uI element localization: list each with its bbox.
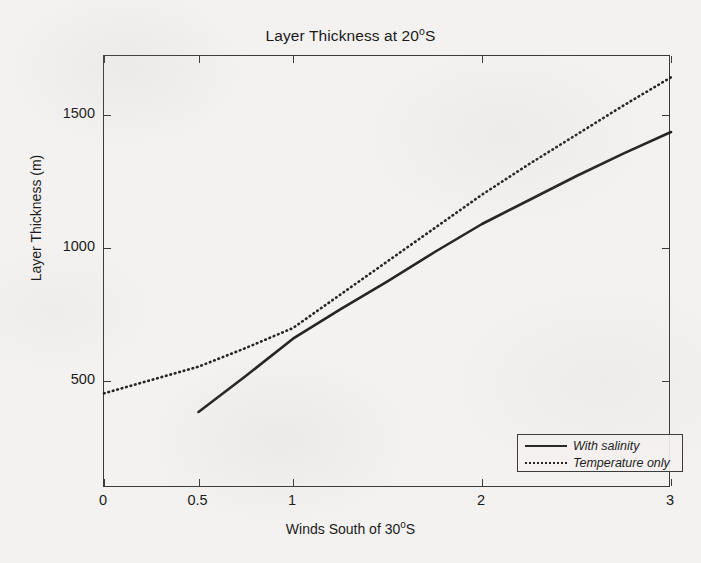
y-tick-label-1000: 1000 (35, 238, 95, 254)
legend-label-temperature-only: Temperature only (573, 456, 670, 470)
y-tick-500 (104, 381, 111, 382)
x-tick-top-1 (293, 56, 294, 63)
y-tick-right-1500 (662, 115, 669, 116)
legend-entry-temperature-only[interactable]: Temperature only (518, 453, 682, 472)
y-tick-1000 (104, 248, 111, 249)
y-axis-label: Layer Thickness (m) (28, 118, 44, 318)
series-line-with-salinity (199, 132, 672, 412)
x-axis-label-prefix: Winds South of 30 (286, 521, 400, 537)
x-tick-label-0: 0 (73, 492, 133, 508)
legend-swatch-solid-line-icon (525, 440, 567, 452)
chart-title-suffix: S (425, 27, 435, 44)
x-tick-1 (293, 479, 294, 486)
x-tick-label-2: 2 (451, 492, 511, 508)
x-tick-0.5 (199, 479, 200, 486)
curves-layer (104, 56, 671, 488)
chart-title: Layer Thickness at 20oS (0, 27, 701, 45)
legend[interactable]: With salinity Temperature only (517, 434, 683, 472)
figure-canvas: Layer Thickness at 20oS With salinity Te… (0, 0, 701, 563)
y-tick-right-500 (662, 381, 669, 382)
legend-label-with-salinity: With salinity (573, 439, 640, 453)
x-tick-top-0 (104, 56, 105, 63)
chart-title-prefix: Layer Thickness at 20 (266, 27, 419, 44)
x-tick-label-1: 1 (262, 492, 322, 508)
x-axis-label: Winds South of 30oS (0, 521, 701, 537)
y-tick-label-1500: 1500 (35, 105, 95, 121)
x-tick-top-3 (671, 56, 672, 63)
y-tick-right-1000 (662, 248, 669, 249)
x-tick-label-0.5: 0.5 (168, 492, 228, 508)
x-tick-2 (482, 479, 483, 486)
plot-area: With salinity Temperature only (103, 55, 670, 487)
x-tick-top-2 (482, 56, 483, 63)
x-axis-label-suffix: S (406, 521, 415, 537)
y-tick-label-500: 500 (35, 371, 95, 387)
legend-swatch-dotted-line-icon (525, 457, 567, 469)
x-tick-top-0.5 (199, 56, 200, 63)
series-line-temperature-only (104, 77, 671, 393)
x-tick-label-3: 3 (640, 492, 700, 508)
x-tick-0 (104, 479, 105, 486)
y-tick-1500 (104, 115, 111, 116)
x-tick-3 (671, 479, 672, 486)
